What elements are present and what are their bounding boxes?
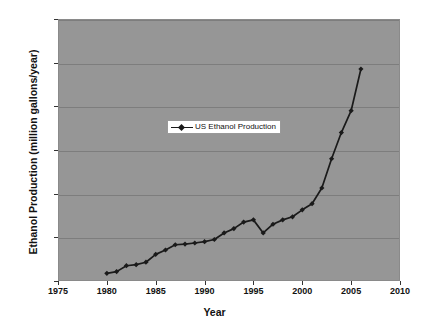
- data-point: [104, 271, 109, 276]
- data-point: [280, 217, 285, 222]
- data-point: [349, 108, 354, 113]
- x-tick-label: 2010: [370, 286, 429, 296]
- series-markers-us-ethanol-production: [104, 66, 363, 276]
- data-point: [339, 130, 344, 135]
- series-line-us-ethanol-production: [107, 69, 361, 273]
- data-point: [134, 262, 139, 267]
- chart-legend: US Ethanol Production: [167, 120, 281, 134]
- y-axis-title: Ethanol Production (million gallons/year…: [27, 27, 39, 277]
- data-series-layer: [58, 19, 400, 281]
- data-point: [358, 66, 363, 71]
- data-point: [329, 156, 334, 161]
- data-point: [202, 239, 207, 244]
- x-axis-title: Year: [0, 306, 429, 318]
- legend-label: US Ethanol Production: [195, 123, 276, 131]
- data-point: [182, 242, 187, 247]
- legend-marker-icon: [171, 123, 193, 131]
- data-point: [192, 240, 197, 245]
- ethanol-production-chart: Ethanol Production (million gallons/year…: [0, 0, 429, 328]
